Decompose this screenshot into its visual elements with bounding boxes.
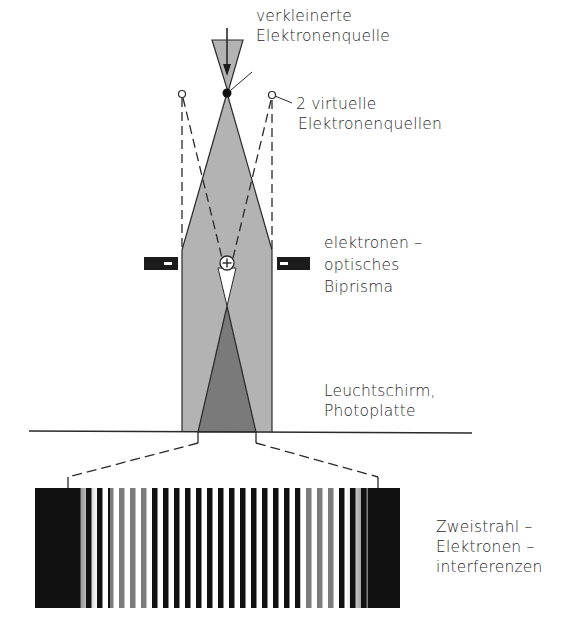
interference-fringes bbox=[35, 488, 400, 608]
enlargement-lines bbox=[68, 432, 378, 488]
virtual-source-left bbox=[179, 91, 186, 98]
label-virtual-sources: 2 virtuelle Elektronenquellen bbox=[296, 94, 442, 134]
label-screen: Leuchtschirm, Photoplatte bbox=[324, 381, 436, 421]
source-cone bbox=[212, 28, 243, 92]
virtual-source-leader-line bbox=[275, 96, 292, 103]
source-dot bbox=[223, 89, 232, 98]
electrode-right bbox=[277, 257, 310, 270]
minus-icon bbox=[280, 262, 288, 265]
screen-line bbox=[29, 431, 472, 433]
label-fringes: Zweistrahl – Elektronen – interferenzen bbox=[436, 517, 543, 577]
minus-icon bbox=[164, 262, 172, 265]
source-leader-line bbox=[231, 72, 252, 90]
label-biprism: elektronen – optisches Biprisma bbox=[324, 232, 422, 298]
label-source: verkleinerte Elektronenquelle bbox=[256, 6, 390, 46]
biprism-wire bbox=[220, 256, 234, 270]
electrode-left bbox=[144, 257, 178, 270]
virtual-source-right bbox=[269, 92, 276, 99]
biprism-diagram: verkleinerte Elektronenquelle 2 virtuell… bbox=[0, 0, 567, 641]
